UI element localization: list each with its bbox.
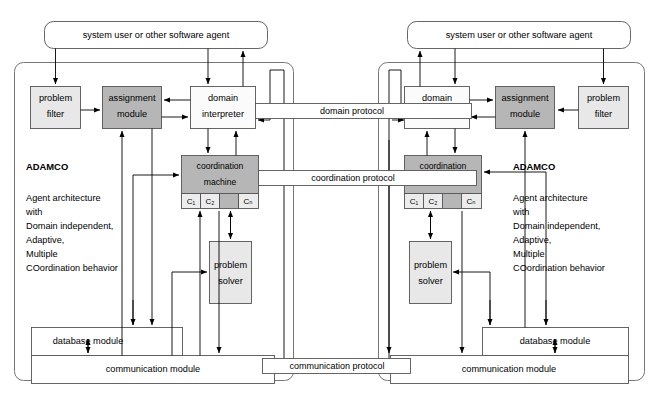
agent-right-domain-interpreter-label-1: domain xyxy=(422,93,452,103)
agent-left-expansion-3: Adaptive, xyxy=(26,235,64,245)
agent-left-expansion-1: with xyxy=(25,207,42,217)
agent-left-problem-solver-box xyxy=(210,242,252,304)
agent-right-problem-solver-box xyxy=(410,242,452,304)
agent-left-cell-c1: C₁ xyxy=(187,197,196,206)
agent-left-acronym: ADAMCO xyxy=(26,161,68,172)
agent-right-assignment-module-label-1: assignment xyxy=(502,93,549,103)
agent-left-domain-interpreter-label-1: domain xyxy=(208,93,238,103)
actor-left-label: system user or other software agent xyxy=(83,30,230,40)
agent-left-expansion-5: COordination behavior xyxy=(26,263,118,273)
agent-right-expansion-5: COordination behavior xyxy=(513,263,605,273)
agent-right-problem-solver-label-1: problem xyxy=(414,260,448,270)
agent-right-assignment-module-label-2: module xyxy=(510,109,540,119)
agent-left-problem-solver-label-2: solver xyxy=(218,276,243,286)
agent-right-problem-filter-label-2: filter xyxy=(595,109,612,119)
diagram-canvas: system user or other software agent syst… xyxy=(0,0,659,410)
agent-right-problem-filter-label-1: problem xyxy=(587,93,621,103)
agent-left-problem-filter-label-2: filter xyxy=(47,109,64,119)
agent-right-cell-c1: C₁ xyxy=(410,197,419,206)
agent-right-expansion-0: Agent architecture xyxy=(513,193,588,203)
architecture-diagram: system user or other software agent syst… xyxy=(0,0,659,410)
agent-left-expansion-0: Agent architecture xyxy=(26,193,101,203)
agent-left-expansion-4: Multiple xyxy=(26,249,58,259)
agent-left-assignment-module-label-2: module xyxy=(117,109,147,119)
domain-protocol-label: domain protocol xyxy=(320,106,384,116)
agent-right-coordination-machine-label-1: coordination xyxy=(420,161,467,171)
agent-left-communication-module-label: communication module xyxy=(106,364,200,374)
actor-right-label: system user or other software agent xyxy=(446,30,593,40)
agent-right-communication-module-label: communication module xyxy=(462,364,556,374)
agent-right-acronym: ADAMCO xyxy=(513,161,555,172)
agent-right-expansion-4: Multiple xyxy=(513,249,545,259)
agent-left-coordination-machine-label-1: coordination xyxy=(197,161,244,171)
agent-right-expansion-1: with xyxy=(512,207,529,217)
agent-left-problem-filter-label-1: problem xyxy=(39,93,73,103)
agent-left-assignment-module-label-1: assignment xyxy=(109,93,156,103)
agent-left-domain-interpreter-label-2: interpreter xyxy=(202,109,244,119)
communication-protocol-label: communication protocol xyxy=(289,361,384,371)
agent-left-expansion-2: Domain independent, xyxy=(26,221,113,231)
agent-right-expansion-2: Domain independent, xyxy=(513,221,600,231)
agent-left-coordination-machine-label-2: machine xyxy=(204,177,237,187)
agent-left-cell-c2: C₂ xyxy=(206,197,215,206)
agent-right-cell-cn: Cₙ xyxy=(467,197,476,206)
agent-right-cell-c2: C₂ xyxy=(429,197,438,206)
coordination-protocol-label: coordination protocol xyxy=(311,173,395,183)
agent-right-problem-solver-label-2: solver xyxy=(418,276,443,286)
agent-left-cell-cn: Cₙ xyxy=(244,197,253,206)
